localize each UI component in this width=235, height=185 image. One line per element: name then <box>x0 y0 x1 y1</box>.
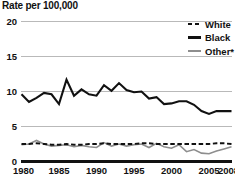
y-tick-label-15: 15 <box>6 51 17 62</box>
data-series-lines <box>22 80 232 154</box>
y-tick-label-10: 10 <box>6 86 17 97</box>
legend-label-white: White <box>205 19 231 30</box>
x-tick-label-2008: 2008 <box>218 165 235 176</box>
series-line-black <box>22 80 232 114</box>
chart-legend: WhiteBlackOther* <box>188 19 234 57</box>
y-axis-tick-labels: 05101520 <box>6 16 17 167</box>
x-tick-label-1980: 1980 <box>13 165 34 176</box>
series-line-other <box>22 141 232 154</box>
chart-plot-area: 05101520 1980198519901995200020052008 Wh… <box>0 0 235 185</box>
y-tick-label-5: 5 <box>12 121 18 132</box>
x-tick-label-2000: 2000 <box>161 165 182 176</box>
x-tick-label-1985: 1985 <box>48 165 70 176</box>
x-tick-label-1995: 1995 <box>123 165 145 176</box>
x-axis-tick-labels: 1980198519901995200020052008 <box>13 165 235 176</box>
legend-label-black: Black <box>205 32 231 43</box>
rate-line-chart: Rate per 100,000 05101520 19801985199019… <box>0 0 235 185</box>
series-line-white <box>22 143 232 144</box>
legend-label-other: Other* <box>205 46 234 57</box>
y-tick-label-20: 20 <box>6 16 17 27</box>
x-tick-label-1990: 1990 <box>86 165 107 176</box>
